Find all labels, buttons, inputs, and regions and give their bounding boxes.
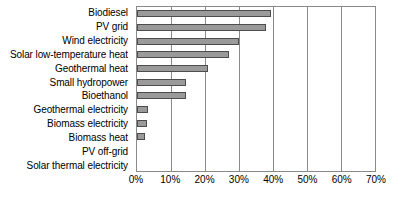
bar bbox=[137, 120, 147, 127]
bar-row bbox=[137, 157, 375, 171]
x-axis-tick-labels: 0%10%20%30%40%50%60%70% bbox=[136, 174, 376, 188]
category-label: Solar thermal electricity bbox=[0, 158, 131, 172]
category-label: Solar low-temperature heat bbox=[0, 47, 131, 61]
bar-row bbox=[137, 103, 375, 117]
x-tick-label: 30% bbox=[229, 174, 249, 186]
category-label: Geothermal electricity bbox=[0, 103, 131, 117]
bar-chart: Biodiesel PV grid Wind electricity Solar… bbox=[0, 0, 394, 200]
category-label: Biodiesel bbox=[0, 6, 131, 20]
bar-row bbox=[137, 144, 375, 158]
bar-row bbox=[137, 34, 375, 48]
bar bbox=[137, 106, 148, 113]
x-tick-label: 20% bbox=[195, 174, 215, 186]
bar bbox=[137, 51, 229, 58]
category-label: Biomass heat bbox=[0, 130, 131, 144]
x-tick-label: 50% bbox=[297, 174, 317, 186]
category-label: PV grid bbox=[0, 20, 131, 34]
bar-row bbox=[137, 48, 375, 62]
category-axis-labels: Biodiesel PV grid Wind electricity Solar… bbox=[0, 6, 131, 172]
bar bbox=[137, 92, 186, 99]
bar-row bbox=[137, 7, 375, 21]
x-tick-label: 40% bbox=[263, 174, 283, 186]
bar bbox=[137, 79, 186, 86]
category-label: Bioethanol bbox=[0, 89, 131, 103]
category-label: Geothermal heat bbox=[0, 61, 131, 75]
category-label: Wind electricity bbox=[0, 34, 131, 48]
bar-row bbox=[137, 130, 375, 144]
bar-row bbox=[137, 116, 375, 130]
bar-row bbox=[137, 89, 375, 103]
x-tick-label: 10% bbox=[160, 174, 180, 186]
x-tick-label: 0% bbox=[129, 174, 143, 186]
bar bbox=[137, 10, 271, 17]
bar-row bbox=[137, 75, 375, 89]
bar bbox=[137, 24, 266, 31]
category-label: PV off-grid bbox=[0, 144, 131, 158]
bar-row bbox=[137, 21, 375, 35]
x-tick-label: 70% bbox=[366, 174, 386, 186]
bar-row bbox=[137, 62, 375, 76]
bar bbox=[137, 65, 208, 72]
bars-layer bbox=[137, 7, 375, 171]
x-tick-label: 60% bbox=[332, 174, 352, 186]
bar bbox=[137, 38, 239, 45]
category-label: Small hydropower bbox=[0, 75, 131, 89]
category-label: Biomass electricity bbox=[0, 117, 131, 131]
bar bbox=[137, 133, 145, 140]
plot-area bbox=[136, 6, 376, 172]
